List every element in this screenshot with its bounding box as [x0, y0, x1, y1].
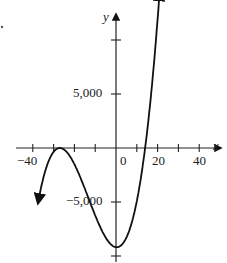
- x-tick-label-neg40: −40: [17, 153, 37, 168]
- y-axis-label: y: [101, 9, 109, 24]
- cubic-graph: y x −40 0 20 40 5,000 −5,000: [0, 0, 227, 263]
- x-tick-label-0: 0: [120, 153, 127, 168]
- x-tick-label-40: 40: [193, 153, 206, 168]
- function-curve: [38, 0, 160, 247]
- stray-dot: [1, 26, 3, 28]
- x-axis-label: x: [212, 138, 219, 153]
- y-tick-label-neg5000: −5,000: [66, 193, 103, 208]
- y-tick-label-5000: 5,000: [73, 85, 102, 100]
- x-tick-label-20: 20: [152, 153, 165, 168]
